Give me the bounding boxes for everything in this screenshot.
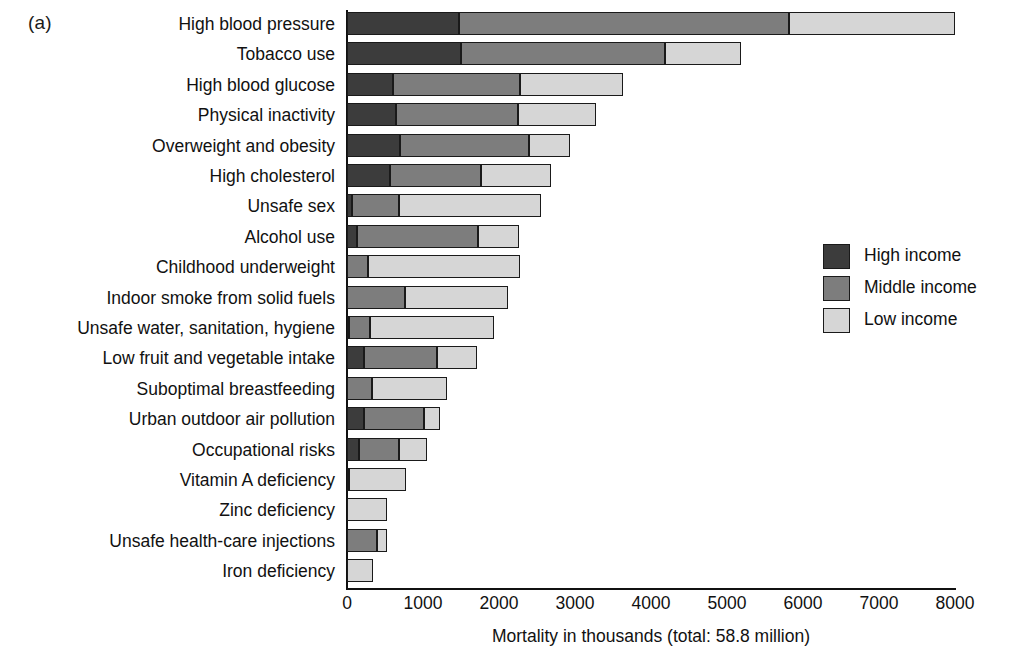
bar-segment-low [372,377,446,400]
bar-segment-low [347,559,373,582]
bar-row [347,42,741,65]
category-label: Indoor smoke from solid fuels [106,290,335,308]
bar-row [347,529,387,552]
bar-row [347,438,427,461]
bar-row [347,103,596,126]
bar-segment-mid [352,194,399,217]
legend-item: Middle income [823,272,1013,304]
bar-row [347,255,520,278]
category-label: Physical inactivity [198,107,335,125]
bar-segment-mid [400,134,529,157]
bar-segment-low [405,286,508,309]
bar-row [347,316,494,339]
bar-row [347,468,406,491]
bar-segment-mid [364,407,424,430]
bar-segment-mid [347,377,372,400]
bar-row [347,164,551,187]
category-label: Low fruit and vegetable intake [102,351,335,369]
legend-swatch-icon [823,244,850,269]
bar-segment-low [349,468,406,491]
category-label-column: High blood pressureTobacco useHigh blood… [30,10,341,588]
bar-segment-high [347,103,396,126]
x-tick-label: 5000 [708,595,747,613]
x-tick-label: 1000 [404,595,443,613]
bar-segment-low [399,194,541,217]
bar-segment-mid [347,529,377,552]
x-tick-label: 7000 [860,595,899,613]
bar-segment-high [347,42,461,65]
legend-label: High income [864,247,961,265]
bar-segment-mid [393,73,521,96]
category-label: Unsafe sex [247,199,335,217]
bar-segment-low [368,255,520,278]
bar-segment-mid [461,42,665,65]
x-tick-label: 4000 [632,595,671,613]
bar-segment-high [347,438,359,461]
category-label: Childhood underweight [156,259,335,277]
category-label: Overweight and obesity [152,138,335,156]
x-axis-line [346,588,956,590]
bar-segment-low [665,42,741,65]
legend-label: Middle income [864,279,977,297]
category-label: Alcohol use [245,229,335,247]
bar-segment-low [789,12,955,35]
bar-row [347,194,541,217]
category-label: Tobacco use [237,47,335,65]
bar-row [347,134,570,157]
bar-row [347,12,955,35]
category-label: Unsafe water, sanitation, hygiene [77,320,335,338]
bar-row [347,73,623,96]
bar-row [347,407,440,430]
category-label: Suboptimal breastfeeding [137,381,335,399]
bar-segment-mid [359,438,399,461]
bar-segment-mid [347,255,368,278]
legend-item: Low income [823,304,1013,336]
bar-segment-mid [396,103,518,126]
bar-row [347,377,447,400]
bar-row [347,346,477,369]
bar-segment-mid [357,225,478,248]
bar-segment-low [520,73,623,96]
bar-segment-low [424,407,441,430]
bar-segment-mid [349,316,370,339]
bar-segment-low [370,316,494,339]
bar-segment-mid [390,164,481,187]
bar-segment-high [347,225,357,248]
bar-segment-mid [364,346,437,369]
legend-item: High income [823,240,1013,272]
x-tick-label: 8000 [936,595,975,613]
bar-segment-low [399,438,426,461]
category-label: Vitamin A deficiency [180,472,335,490]
legend-swatch-icon [823,308,850,333]
category-label: Zinc deficiency [219,503,335,521]
x-tick-label: 3000 [556,595,595,613]
legend-swatch-icon [823,276,850,301]
bar-segment-mid [459,12,789,35]
bar-segment-low [377,529,388,552]
category-label: High blood glucose [186,77,335,95]
bar-row [347,498,387,521]
x-tick-label: 6000 [784,595,823,613]
bar-segment-high [347,12,459,35]
bar-segment-low [529,134,569,157]
bar-segment-low [478,225,519,248]
legend-label: Low income [864,311,957,329]
bar-segment-low [481,164,552,187]
figure-panel-a: (a) High blood pressureTobacco useHigh b… [0,0,1032,654]
legend: High incomeMiddle incomeLow income [823,240,1013,336]
bar-segment-high [347,407,364,430]
category-label: Urban outdoor air pollution [129,411,335,429]
bar-row [347,286,508,309]
bar-segment-high [347,164,390,187]
x-axis-title: Mortality in thousands (total: 58.8 mill… [492,626,810,647]
category-label: Unsafe health-care injections [109,533,335,551]
bar-segment-low [347,498,387,521]
bar-segment-low [437,346,477,369]
category-label: Occupational risks [192,442,335,460]
bar-row [347,559,373,582]
category-label: High blood pressure [178,16,335,34]
x-tick-label: 2000 [480,595,519,613]
category-label: High cholesterol [210,168,335,186]
bar-segment-high [347,73,393,96]
bar-row [347,225,519,248]
